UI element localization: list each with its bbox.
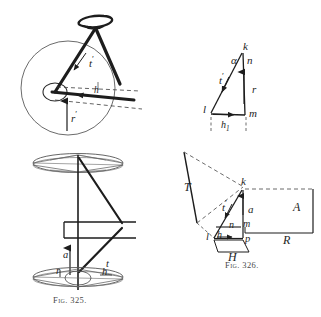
label-r-front: r <box>56 266 60 277</box>
label-n-spatial: n <box>229 220 234 230</box>
fig-perspective-wheel-group <box>21 16 142 135</box>
caption-fig-326: Fig. 326. <box>225 260 259 270</box>
label-T-spatial: T <box>184 181 191 193</box>
label-t-prime-wheel: t′ <box>89 55 94 69</box>
scanned-figure-page: t′ h r′ k α n t′ r l m h1 a t r h T k t′… <box>0 0 321 317</box>
label-R-spatial: R <box>283 234 290 246</box>
figures-drawing <box>0 0 321 317</box>
label-A-spatial: A <box>293 201 300 213</box>
label-h1-triangle: h1 <box>221 120 230 133</box>
label-t-prime-triangle: t′ <box>219 72 224 86</box>
label-l-spatial: l <box>206 232 209 243</box>
label-t-prime-spatial: t′ <box>222 199 227 213</box>
label-a-front: a <box>63 250 68 261</box>
label-a-spatial: a <box>248 204 254 215</box>
label-alpha-triangle: α <box>231 55 237 66</box>
label-k-spatial: k <box>241 176 246 187</box>
dashed-construction-lower <box>55 100 142 109</box>
plane-T-dashed-lower <box>197 187 243 223</box>
label-r-triangle: r <box>252 84 256 95</box>
caption-fig-325: Fig. 325. <box>53 295 87 305</box>
label-k-triangle: k <box>243 41 248 52</box>
label-h-front: h <box>102 267 107 278</box>
label-m-spatial: m <box>243 219 250 229</box>
plane-T-dashed-upper <box>184 152 242 186</box>
fig-front-wheel-group <box>33 154 136 291</box>
diagonal-upper <box>79 158 122 223</box>
label-m-triangle: m <box>249 108 257 119</box>
label-r-prime-wheel: r′ <box>71 110 77 124</box>
wheel-rim-circle <box>21 41 115 135</box>
fork-tube-rear <box>96 29 120 84</box>
label-l-triangle: l <box>203 104 206 115</box>
label-h-spatial: h <box>217 230 222 240</box>
diagonal-lower <box>79 228 122 272</box>
label-h-wheel: h <box>94 86 99 96</box>
label-n-triangle: n <box>247 55 253 66</box>
saddle-outline <box>79 16 113 28</box>
label-p-spatial: p <box>245 234 250 245</box>
